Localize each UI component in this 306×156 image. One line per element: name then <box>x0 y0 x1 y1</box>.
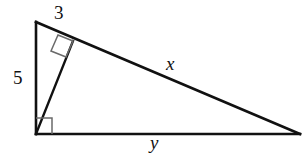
label-hypotenuse-x: x <box>166 54 174 73</box>
right-angle-marker-altitude-foot <box>51 35 73 57</box>
geometry-figure: 3 5 x y <box>0 0 306 156</box>
label-base-y: y <box>150 133 158 152</box>
label-short-leg-3: 3 <box>54 3 64 22</box>
label-vertical-leg-5: 5 <box>13 68 23 87</box>
hypotenuse-line <box>36 22 300 134</box>
